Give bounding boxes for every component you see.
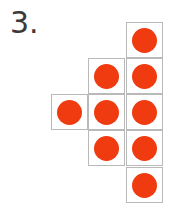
grid-cell — [126, 167, 163, 203]
red-dot-icon — [132, 28, 157, 53]
grid-cell — [88, 94, 125, 130]
red-dot-icon — [132, 173, 157, 198]
problem-number: 3. — [10, 8, 39, 38]
red-dot-icon — [94, 64, 119, 89]
red-dot-icon — [94, 100, 119, 125]
grid-cell — [126, 22, 163, 58]
red-dot-icon — [132, 100, 157, 125]
red-dot-icon — [94, 136, 119, 161]
grid-cell — [51, 94, 88, 130]
red-dot-icon — [132, 64, 157, 89]
grid-cell — [126, 94, 163, 130]
grid-cell — [88, 130, 125, 166]
grid-cell — [88, 58, 125, 94]
red-dot-icon — [132, 136, 157, 161]
grid-cell — [126, 58, 163, 94]
grid-cell — [126, 130, 163, 166]
red-dot-icon — [57, 100, 82, 125]
